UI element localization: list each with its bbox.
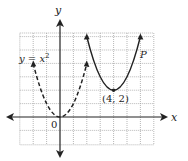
graph-figure: y x 0 y = x2 P (4, 2) — [0, 0, 188, 161]
curve-label-P: P — [139, 49, 147, 60]
x-axis-label: x — [171, 111, 178, 124]
origin-label: 0 — [51, 119, 57, 130]
curve-label-x-squared: y = x2 — [18, 52, 50, 64]
y-axis-label: y — [54, 4, 62, 17]
vertex-label: (4, 2) — [102, 93, 129, 104]
vertex-point — [112, 88, 116, 92]
